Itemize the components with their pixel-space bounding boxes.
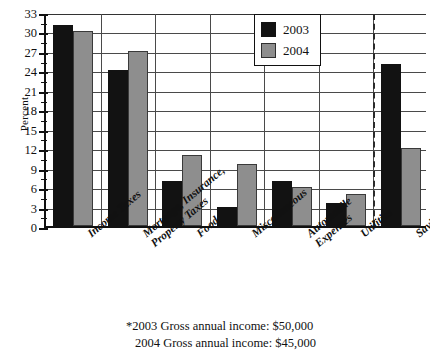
y-tick-minor-13.5 bbox=[41, 140, 47, 141]
y-axis-label-3: 3 bbox=[31, 201, 37, 216]
y-tick-minor-7.5 bbox=[41, 179, 47, 180]
y-tick-minor-28.5 bbox=[41, 43, 47, 44]
gridline-18 bbox=[46, 111, 426, 112]
gridline-33 bbox=[46, 14, 426, 15]
y-tick-minor-10.5 bbox=[41, 160, 47, 161]
y-axis-label-30: 30 bbox=[25, 26, 38, 41]
y-tick-30 bbox=[39, 33, 48, 35]
bar-chart-figure: Percent 03691215182124273033 2003 2004 I… bbox=[0, 0, 430, 354]
y-axis-label-21: 21 bbox=[25, 84, 38, 99]
gridline-30 bbox=[46, 33, 426, 34]
y-tick-minor-4.5 bbox=[41, 199, 47, 200]
y-tick-15 bbox=[39, 131, 48, 133]
x-axis-label-savings: Savings bbox=[413, 230, 421, 240]
y-tick-minor-31.5 bbox=[41, 24, 47, 25]
y-tick-minor-16.5 bbox=[41, 121, 47, 122]
x-axis-label-miscellaneous: Miscellaneous bbox=[249, 230, 257, 240]
y-tick-9 bbox=[39, 170, 48, 172]
legend-label-2004: 2004 bbox=[283, 43, 309, 59]
y-axis-label-33: 33 bbox=[25, 7, 38, 22]
legend-label-2003: 2003 bbox=[283, 22, 309, 38]
category-separator-2 bbox=[155, 14, 156, 226]
y-axis-label-24: 24 bbox=[25, 65, 38, 80]
legend-item-2004: 2004 bbox=[261, 40, 315, 61]
bar-2004-income-taxes bbox=[73, 31, 93, 226]
y-axis-label-0: 0 bbox=[31, 221, 37, 236]
y-tick-minor-25.5 bbox=[41, 63, 47, 64]
gridline-27 bbox=[46, 53, 426, 54]
y-tick-33 bbox=[39, 14, 48, 16]
legend-item-2003: 2003 bbox=[261, 19, 315, 40]
y-tick-6 bbox=[39, 189, 48, 191]
category-separator-3 bbox=[210, 14, 211, 226]
y-tick-3 bbox=[39, 209, 48, 211]
plot-area: 03691215182124273033 bbox=[44, 14, 426, 228]
x-axis-label-mortgage-insurance: Mortgage, Insurance,Property Taxes bbox=[140, 230, 157, 250]
gridline-15 bbox=[46, 131, 426, 132]
x-axis-label-food: Food bbox=[194, 230, 202, 240]
y-tick-27 bbox=[39, 53, 48, 55]
bar-2004-savings bbox=[401, 148, 421, 226]
x-axis-label-automobile: AutomobileExpenses bbox=[304, 230, 321, 250]
y-axis-label-12: 12 bbox=[25, 143, 38, 158]
y-tick-12 bbox=[39, 150, 48, 152]
footnote-line-1: *2003 Gross annual income: $50,000 bbox=[126, 318, 426, 335]
bar-2004-miscellaneous bbox=[237, 164, 257, 226]
legend: 2003 2004 bbox=[254, 14, 321, 66]
y-tick-21 bbox=[39, 92, 48, 94]
y-axis-label-15: 15 bbox=[25, 123, 38, 138]
x-axis-label-utilities: Utilities bbox=[358, 230, 366, 240]
gridline-24 bbox=[46, 72, 426, 73]
y-axis-label-27: 27 bbox=[25, 45, 38, 60]
x-axis-category-labels: Income TaxesMortgage, Insurance,Property… bbox=[44, 230, 426, 310]
footnote-line-2: 2004 Gross annual income: $45,000 bbox=[126, 335, 426, 352]
bar-2003-savings bbox=[381, 64, 401, 226]
x-axis-label-income-taxes: Income Taxes bbox=[85, 230, 93, 240]
y-tick-minor-1.5 bbox=[41, 218, 47, 219]
gridline-12 bbox=[46, 150, 426, 151]
y-tick-24 bbox=[39, 72, 48, 74]
y-axis-label-18: 18 bbox=[25, 104, 38, 119]
legend-swatch-2003 bbox=[261, 22, 276, 37]
gridline-21 bbox=[46, 92, 426, 93]
y-axis-label-9: 9 bbox=[31, 162, 37, 177]
y-tick-minor-22.5 bbox=[41, 82, 47, 83]
gridline-6 bbox=[46, 189, 426, 190]
legend-swatch-2004 bbox=[261, 43, 276, 58]
savings-divider-dashed-line bbox=[373, 14, 375, 226]
footnotes: *2003 Gross annual income: $50,000 2004 … bbox=[126, 318, 426, 352]
y-tick-18 bbox=[39, 111, 48, 113]
y-tick-minor-19.5 bbox=[41, 102, 47, 103]
y-axis-label-6: 6 bbox=[31, 182, 37, 197]
gridline-9 bbox=[46, 170, 426, 171]
category-separator-1 bbox=[101, 14, 102, 226]
bar-2003-income-taxes bbox=[53, 25, 73, 226]
